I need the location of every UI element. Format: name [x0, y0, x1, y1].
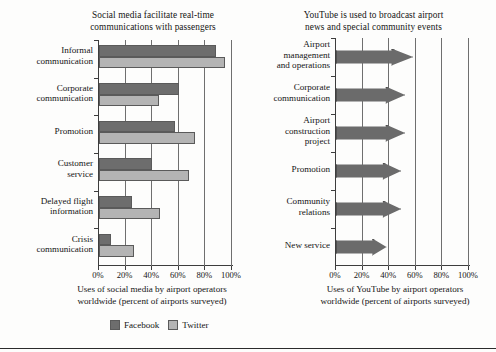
- category-label-line: Airport: [252, 115, 330, 126]
- bar-shape-arrow: [336, 239, 387, 256]
- category-label-line: New service: [252, 240, 330, 251]
- category-label-line: project: [252, 136, 330, 147]
- gridline: [441, 38, 442, 266]
- x-axis-tick-label: 0%: [320, 270, 350, 280]
- bar-shape-arrow: [336, 163, 401, 180]
- y-axis-tick: [331, 76, 335, 77]
- category-label-line: communication: [1, 56, 93, 67]
- category-label-line: management: [252, 50, 330, 61]
- category-label-line: Delayed flight: [1, 196, 93, 207]
- bar-facebook: [99, 45, 216, 57]
- y-axis-tick: [331, 38, 335, 39]
- gridline: [468, 38, 469, 266]
- chart-title-youtube: YouTube is used to broadcast airport new…: [266, 9, 481, 33]
- category-label: Promotion: [252, 164, 330, 175]
- category-label-line: Community: [252, 196, 330, 207]
- y-axis-tick: [331, 228, 335, 229]
- figure-page: Social media facilitate real-time commun…: [0, 0, 496, 352]
- category-label-line: construction: [252, 126, 330, 137]
- x-axis-tick-label: 60%: [163, 270, 193, 280]
- x-axis-tick-label: 100%: [453, 270, 483, 280]
- legend-swatch-twitter-icon: [168, 320, 178, 330]
- category-label-line: Informal: [1, 45, 93, 56]
- legend-swatch-facebook-icon: [110, 320, 120, 330]
- y-axis-tick: [331, 152, 335, 153]
- category-label-line: Airport: [252, 39, 330, 50]
- chart-legend: Facebook Twitter: [110, 320, 209, 330]
- chart-title-line-2: communications with passengers: [58, 21, 248, 33]
- category-label: Customerservice: [1, 158, 93, 179]
- legend-item-facebook: Facebook: [110, 320, 159, 330]
- plot-area-youtube: 0%20%40%60%80%100%Airportmanagementand o…: [335, 38, 468, 266]
- gridline: [125, 40, 126, 266]
- bar-shape-arrow: [336, 87, 405, 104]
- x-axis-tick-label: 60%: [400, 270, 430, 280]
- x-axis-caption-social-media: Uses of social media by airport operator…: [52, 283, 252, 307]
- x-axis-caption-youtube: Uses of YouTube by airport operators wor…: [297, 283, 493, 307]
- bar-facebook: [99, 121, 175, 133]
- x-axis-tick-label: 80%: [189, 270, 219, 280]
- gridline: [362, 38, 363, 266]
- legend-label-facebook: Facebook: [124, 320, 159, 330]
- x-axis-line: [98, 265, 233, 266]
- x-axis-tick-label: 20%: [110, 270, 140, 280]
- caption-line-1: Uses of YouTube by airport operators: [297, 283, 493, 295]
- category-label-line: Corporate: [1, 83, 93, 94]
- bar-shape-arrow: [336, 125, 405, 142]
- category-label-line: communication: [252, 93, 330, 104]
- legend-label-twitter: Twitter: [182, 320, 208, 330]
- bar-shape-arrow: [336, 201, 401, 218]
- gridline: [178, 40, 179, 266]
- category-label-line: relations: [252, 207, 330, 218]
- y-axis-tick: [94, 191, 98, 192]
- bar-facebook: [99, 196, 132, 208]
- y-axis-tick: [94, 40, 98, 41]
- category-label: Communityrelations: [252, 196, 330, 217]
- category-label: New service: [252, 240, 330, 251]
- bar-twitter: [99, 57, 225, 69]
- category-label-line: Promotion: [1, 126, 93, 137]
- caption-line-2: worldwide (percent of airports surveyed): [52, 295, 252, 307]
- gridline: [415, 38, 416, 266]
- x-axis-tick-label: 20%: [347, 270, 377, 280]
- bar-twitter: [99, 132, 195, 144]
- category-label-line: communication: [1, 244, 93, 255]
- bar-youtube: [336, 201, 401, 218]
- y-axis-tick: [331, 190, 335, 191]
- gridline: [388, 38, 389, 266]
- bar-facebook: [99, 234, 111, 246]
- gridline: [231, 40, 232, 266]
- category-label-line: Crisis: [1, 234, 93, 245]
- bar-shape-arrow: [336, 49, 413, 66]
- y-axis-tick: [331, 114, 335, 115]
- y-axis-tick: [94, 228, 98, 229]
- y-axis-line: [98, 40, 99, 266]
- category-label-line: communication: [1, 93, 93, 104]
- chart-title-line-1: Social media facilitate real-time: [58, 9, 248, 21]
- bar-facebook: [99, 83, 179, 95]
- legend-item-twitter: Twitter: [168, 320, 208, 330]
- chart-title-social-media: Social media facilitate real-time commun…: [58, 9, 248, 33]
- page-bottom-rule: [0, 348, 496, 349]
- chart-title-line-1: YouTube is used to broadcast airport: [266, 9, 481, 21]
- category-label: Informalcommunication: [1, 45, 93, 66]
- category-label: Promotion: [1, 126, 93, 137]
- category-label: Corporatecommunication: [1, 83, 93, 104]
- gridline: [151, 40, 152, 266]
- bar-youtube: [336, 239, 387, 256]
- gridline: [204, 40, 205, 266]
- category-label-line: Corporate: [252, 82, 330, 93]
- y-axis-tick: [94, 153, 98, 154]
- bar-twitter: [99, 170, 189, 182]
- bar-youtube: [336, 49, 413, 66]
- bar-twitter: [99, 245, 134, 257]
- x-axis-tick-label: 80%: [426, 270, 456, 280]
- category-label: Airportmanagementand operations: [252, 39, 330, 71]
- category-label-line: Promotion: [252, 164, 330, 175]
- y-axis-tick: [94, 78, 98, 79]
- chart-panel-social-media: Social media facilitate real-time commun…: [0, 0, 250, 352]
- bar-youtube: [336, 87, 405, 104]
- chart-title-line-2: news and special community events: [266, 21, 481, 33]
- x-axis-tick-label: 40%: [136, 270, 166, 280]
- bar-twitter: [99, 208, 160, 220]
